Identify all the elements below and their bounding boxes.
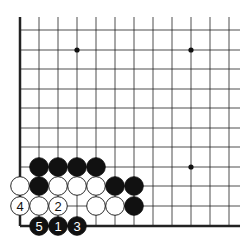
white-stone (68, 177, 87, 196)
black-stone (125, 197, 144, 216)
black-stone (125, 177, 144, 196)
star-point (188, 164, 193, 169)
move-number: 4 (16, 199, 23, 214)
white-stone: 2 (49, 197, 68, 216)
white-stone (49, 177, 68, 196)
white-stone (30, 197, 49, 216)
black-stone: 5 (30, 217, 49, 236)
star-point (188, 47, 193, 52)
black-stone (30, 158, 49, 177)
black-stone (30, 177, 49, 196)
black-stone (68, 158, 87, 177)
move-number: 1 (54, 219, 61, 234)
black-stone (106, 177, 125, 196)
go-board: 42513 (0, 0, 251, 252)
black-stone (87, 158, 106, 177)
star-point (74, 47, 79, 52)
move-number: 3 (73, 219, 80, 234)
white-stone (11, 177, 30, 196)
white-stone (106, 197, 125, 216)
black-stone: 3 (68, 217, 87, 236)
black-stone: 1 (49, 217, 68, 236)
black-stone (49, 158, 68, 177)
white-stone (87, 177, 106, 196)
white-stone (87, 197, 106, 216)
move-number: 5 (35, 219, 42, 234)
move-number: 2 (54, 199, 61, 214)
white-stone: 4 (11, 197, 30, 216)
